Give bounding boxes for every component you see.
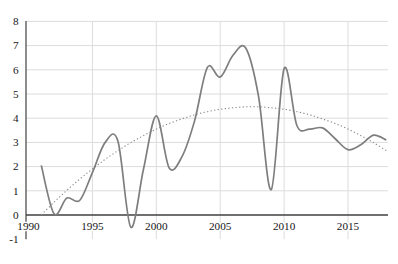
y-tick-label: -1 — [9, 233, 18, 245]
line-chart-figure: 876543210-1199019952000200520102015 — [0, 0, 398, 264]
chart-canvas: 876543210-1199019952000200520102015 — [0, 0, 398, 264]
chart-page: 876543210-1199019952000200520102015 — [0, 0, 398, 264]
y-tick-label: 5 — [13, 88, 19, 100]
x-tick-label: 2010 — [273, 220, 296, 232]
y-tick-label: 4 — [13, 112, 19, 124]
y-tick-label: 8 — [13, 15, 19, 27]
y-tick-label: 2 — [13, 160, 19, 172]
x-tick-label: 2015 — [337, 220, 360, 232]
data-series-path — [41, 46, 386, 228]
y-tick-label: 6 — [13, 64, 19, 76]
trendline-path — [41, 107, 386, 215]
x-tick-label: 1995 — [81, 220, 104, 232]
y-tick-label: 1 — [13, 185, 19, 197]
x-tick-label: 2000 — [145, 220, 168, 232]
x-tick-label: 2005 — [209, 220, 232, 232]
y-tick-label: 3 — [13, 136, 19, 148]
y-tick-label: 7 — [13, 39, 19, 51]
x-tick-label: 1990 — [17, 220, 40, 232]
